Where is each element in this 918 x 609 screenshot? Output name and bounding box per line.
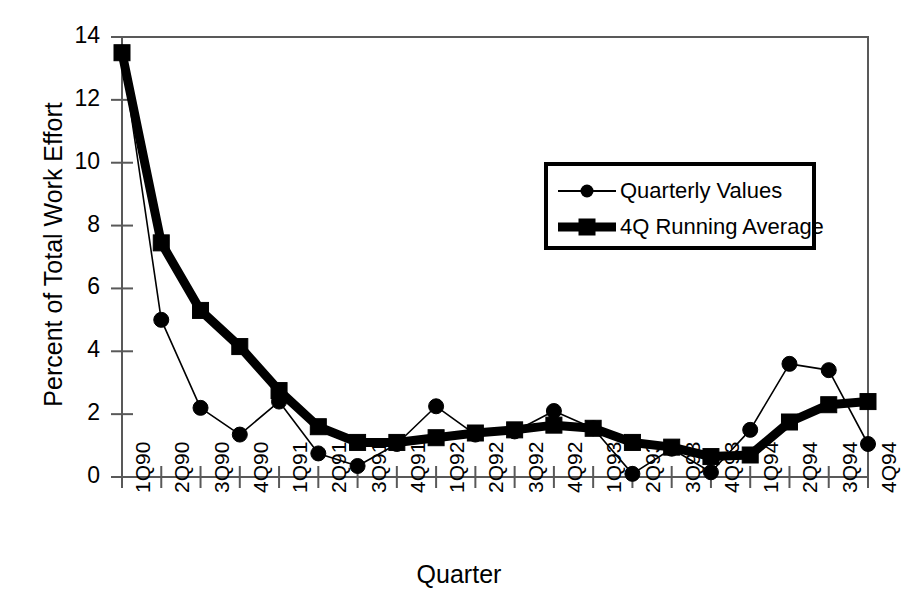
legend-label-running-average: 4Q Running Average — [620, 214, 824, 240]
x-axis-tick-label: 1Q91 — [288, 442, 312, 493]
series-data-point — [311, 446, 326, 461]
legend-item-quarterly-values: Quarterly Values — [558, 172, 782, 210]
x-axis-tick-label: 4Q93 — [720, 442, 744, 493]
chart-series-quarterly-values — [115, 45, 876, 481]
series-data-point — [546, 417, 562, 433]
x-axis-tick-label: 3Q93 — [681, 442, 705, 493]
chart-legend: Quarterly Values 4Q Running Average — [544, 162, 816, 250]
x-axis-tick-label: 1Q94 — [759, 442, 783, 493]
chart-series-group — [114, 45, 876, 482]
x-axis-tick-label: 2Q94 — [798, 442, 822, 493]
x-axis-tick-label: 4Q90 — [249, 442, 273, 493]
series-data-point — [310, 419, 326, 435]
legend-swatch-line-circle-icon — [558, 178, 616, 204]
series-data-point — [153, 235, 169, 251]
series-data-point — [428, 430, 444, 446]
x-axis-title: Quarter — [0, 560, 918, 589]
series-data-point — [468, 427, 483, 442]
chart-series-running-average — [114, 45, 876, 465]
legend-item-running-average: 4Q Running Average — [558, 208, 824, 246]
series-data-point — [232, 339, 248, 355]
series-data-point — [860, 394, 876, 410]
series-data-point — [703, 465, 718, 480]
series-data-point — [861, 437, 876, 452]
x-axis-tick-label: 1Q92 — [445, 442, 469, 493]
series-data-point — [507, 424, 522, 439]
series-data-point — [624, 434, 640, 450]
series-data-point — [389, 437, 404, 452]
series-data-point — [115, 45, 130, 60]
series-data-point — [350, 459, 365, 474]
series-data-point — [193, 302, 209, 318]
y-axis-tick-label: 0 — [60, 462, 100, 489]
plot-frame — [122, 37, 868, 477]
x-axis-tick-label: 2Q92 — [484, 442, 508, 493]
x-axis-tick-label: 3Q90 — [210, 442, 234, 493]
x-axis-tick-label: 3Q91 — [367, 442, 391, 493]
series-data-point — [821, 363, 836, 378]
chart-plot-area — [0, 0, 918, 609]
series-line — [122, 53, 868, 457]
series-data-point — [742, 447, 758, 463]
series-line — [122, 53, 868, 474]
series-data-point — [664, 441, 679, 456]
series-data-point — [546, 404, 561, 419]
x-axis-tick-label: 2Q93 — [641, 442, 665, 493]
x-axis-tick-label: 1Q93 — [602, 442, 626, 493]
series-data-point — [429, 399, 444, 414]
series-data-point — [350, 434, 366, 450]
x-axis-tick-label: 4Q91 — [406, 442, 430, 493]
series-data-point — [782, 356, 797, 371]
x-axis-tick-label: 1Q90 — [131, 442, 155, 493]
legend-label-quarterly-values: Quarterly Values — [620, 178, 782, 204]
series-data-point — [625, 466, 640, 481]
x-axis-tick-label: 3Q94 — [838, 442, 862, 493]
series-data-point — [781, 414, 797, 430]
y-axis-title: Percent of Total Work Effort — [39, 95, 68, 415]
series-data-point — [743, 422, 758, 437]
series-data-point — [154, 312, 169, 327]
x-axis-tick-label: 3Q92 — [524, 442, 548, 493]
x-axis-tick-label: 4Q94 — [877, 442, 901, 493]
series-data-point — [703, 449, 719, 465]
x-axis-tick-label: 2Q90 — [170, 442, 194, 493]
chart-figure: 02468101214 1Q902Q903Q904Q901Q912Q913Q91… — [0, 0, 918, 609]
series-data-point — [232, 427, 247, 442]
series-data-point — [193, 400, 208, 415]
legend-swatch-line-square-icon — [558, 214, 616, 240]
x-axis-tick-label: 4Q92 — [563, 442, 587, 493]
series-data-point — [821, 397, 837, 413]
series-data-point — [586, 421, 601, 436]
y-axis-tick-label: 14 — [60, 22, 100, 49]
series-data-point — [272, 394, 287, 409]
x-axis-tick-label: 2Q91 — [327, 442, 351, 493]
